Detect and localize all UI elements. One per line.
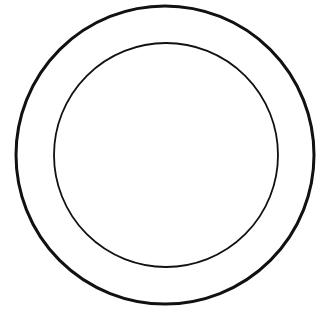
concentric-circles-diagram — [0, 0, 323, 319]
inner-circle — [54, 43, 278, 267]
outer-circle — [16, 6, 314, 304]
